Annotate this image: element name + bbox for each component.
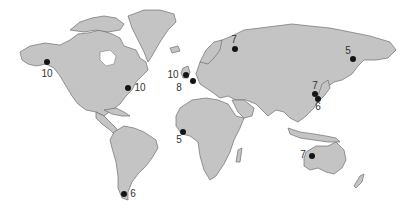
marker-value-label: 10 xyxy=(167,70,178,80)
iceland xyxy=(170,46,180,53)
marker-value-label: 7 xyxy=(300,150,306,160)
location-marker xyxy=(125,85,131,91)
indonesia xyxy=(288,128,340,142)
location-marker xyxy=(309,153,315,159)
north-america xyxy=(20,30,148,116)
marker-value-label: 7 xyxy=(312,81,318,91)
location-marker xyxy=(121,191,127,197)
marker-value-label: 7 xyxy=(231,35,237,45)
location-marker xyxy=(232,46,238,52)
world-map xyxy=(0,0,415,213)
marker-value-label: 5 xyxy=(176,135,182,145)
caribbean xyxy=(104,108,130,116)
location-marker xyxy=(350,56,356,62)
marker-value-label: 6 xyxy=(130,189,136,199)
marker-value-label: 5 xyxy=(345,46,351,56)
location-marker xyxy=(190,78,196,84)
africa xyxy=(176,98,244,180)
marker-value-label: 10 xyxy=(134,83,145,93)
marker-value-label: 10 xyxy=(41,69,52,79)
location-marker xyxy=(183,72,189,78)
arctic-archipelago xyxy=(70,16,124,32)
location-marker xyxy=(44,59,50,65)
marker-value-label: 8 xyxy=(176,83,182,93)
new-zealand xyxy=(354,174,364,188)
madagascar xyxy=(236,148,242,162)
marker-value-label: 6 xyxy=(315,102,321,112)
